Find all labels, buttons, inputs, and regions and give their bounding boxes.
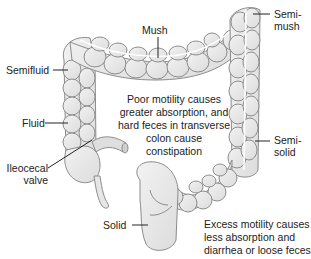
label-semi-mush-line1: Semi- — [274, 8, 301, 20]
label-semi-mush: Semi- mush — [274, 8, 301, 32]
label-mush: Mush — [142, 24, 168, 36]
note-poor-motility-line5: constipation — [108, 145, 240, 158]
note-poor-motility-line2: greater absorption, and — [108, 106, 240, 119]
note-excess-motility-line1: Excess motility causes — [204, 218, 311, 231]
label-ileocecal-valve: Ileocecal valve — [4, 162, 48, 186]
label-fluid: Fluid — [22, 117, 45, 129]
label-semi-mush-line2: mush — [274, 20, 301, 32]
note-poor-motility-line1: Poor motility causes — [108, 93, 240, 106]
label-semi-solid-line1: Semi- — [274, 134, 301, 146]
note-excess-motility: Excess motility causes less absorption a… — [204, 218, 311, 257]
label-semifluid: Semifluid — [6, 64, 49, 76]
note-poor-motility: Poor motility causes greater absorption,… — [108, 93, 240, 158]
note-poor-motility-line4: colon cause — [108, 132, 240, 145]
note-excess-motility-line2: less absorption and — [204, 231, 311, 244]
label-solid: Solid — [103, 219, 126, 231]
label-semi-solid-line2: solid — [274, 146, 301, 158]
colon-diagram: Mush Semi- mush Semifluid Fluid Ileoceca… — [0, 0, 311, 259]
label-semi-solid: Semi- solid — [274, 134, 301, 158]
rectum — [137, 162, 178, 251]
note-excess-motility-line3: diarrhea or loose feces — [204, 244, 311, 257]
note-poor-motility-line3: hard feces in transverse — [108, 119, 240, 132]
label-ileocecal-line1: Ileocecal — [4, 162, 48, 174]
label-ileocecal-line2: valve — [4, 174, 48, 186]
